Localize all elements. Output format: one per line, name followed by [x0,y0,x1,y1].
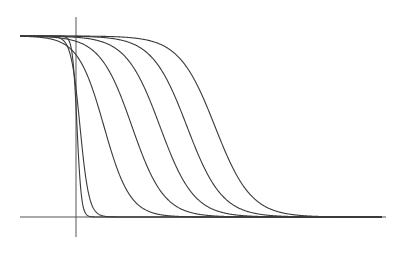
sigmoid-curve-3 [20,36,382,217]
plot-area [0,0,404,253]
sigmoid-curve-1 [20,36,382,217]
sigmoid-curve-2 [20,36,382,217]
sigmoid-curve-5 [20,36,382,217]
sigmoid-curve-chart [0,0,404,253]
curves [20,36,382,217]
sigmoid-curve-6 [20,36,382,217]
sigmoid-curve-7 [20,36,382,217]
sigmoid-curve-4 [20,36,382,217]
